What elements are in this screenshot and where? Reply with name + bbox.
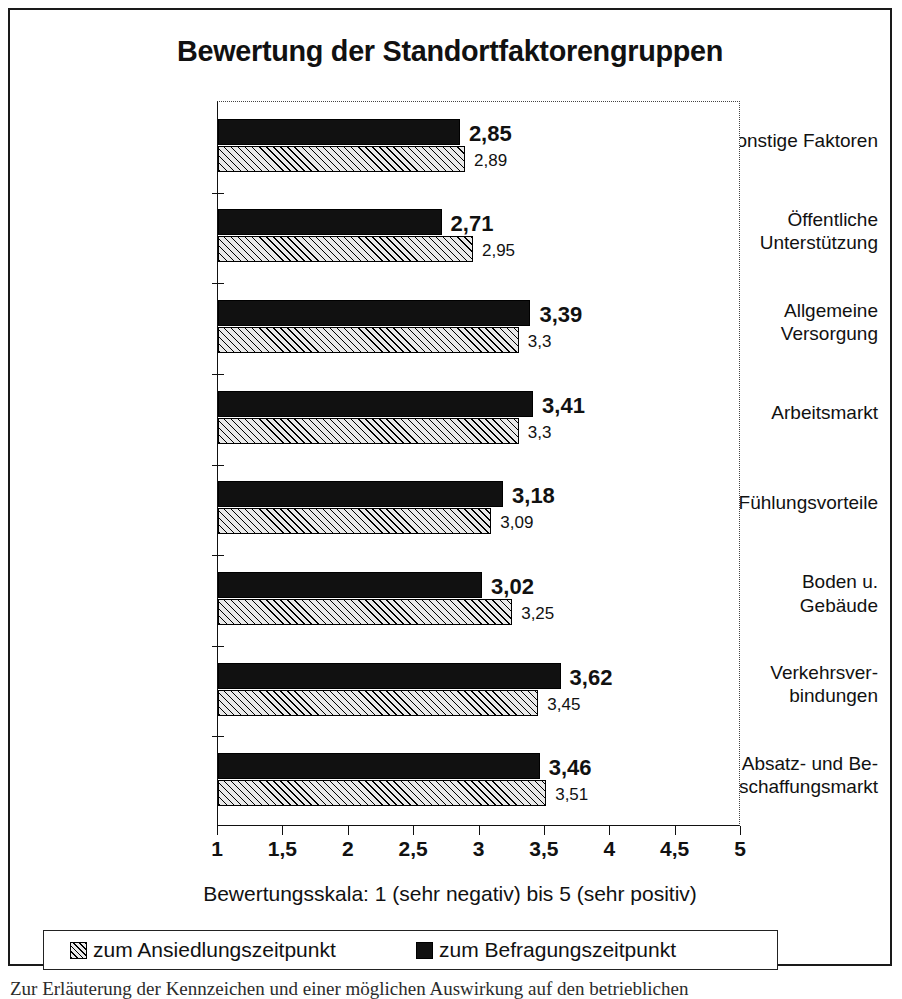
bar-group: 3,183,09 (218, 465, 739, 556)
category-tick (212, 465, 224, 466)
x-axis-tick (348, 826, 349, 835)
bar-befragungszeitpunkt (218, 572, 482, 598)
hatched-swatch (70, 942, 87, 959)
bar-value-label: 2,89 (474, 152, 507, 169)
bar-value-label: 3,62 (570, 667, 613, 689)
bar-value-label: 2,71 (451, 213, 494, 235)
x-axis-tick-label: 2 (342, 837, 354, 861)
bar-ansiedlungszeitpunkt (218, 780, 546, 806)
x-axis-tick-label: 1,5 (268, 837, 297, 861)
bar-value-label: 3,18 (512, 485, 555, 507)
bar-group: 3,413,3 (218, 374, 739, 465)
x-axis-tick (544, 826, 545, 835)
bar-group: 2,712,95 (218, 193, 739, 284)
category-tick (212, 646, 224, 647)
bar-value-label: 3,45 (547, 696, 580, 713)
x-axis-tick-label: 4 (603, 837, 615, 861)
bar-ansiedlungszeitpunkt (218, 690, 538, 716)
bar-befragungszeitpunkt (218, 663, 561, 689)
category-tick (212, 736, 224, 737)
bar-group: 3,623,45 (218, 646, 739, 737)
bar-ansiedlungszeitpunkt (218, 236, 473, 262)
bar-group: 3,463,51 (218, 736, 739, 827)
x-axis-tick (609, 826, 610, 835)
bar-group: 2,852,89 (218, 102, 739, 193)
bar-group: 3,023,25 (218, 555, 739, 646)
bar-value-label: 3,39 (539, 304, 582, 326)
x-axis: 11,522,533,544,55 (217, 826, 740, 838)
x-axis-tick (217, 826, 218, 835)
category-tick (212, 193, 224, 194)
x-axis-tick-label: 5 (734, 837, 746, 861)
x-axis-tick (740, 826, 741, 835)
legend-label: zum Ansiedlungszeitpunkt (93, 938, 336, 962)
x-axis-tick-label: 2,5 (399, 837, 428, 861)
bar-value-label: 3,3 (528, 333, 552, 350)
x-axis-tick (282, 826, 283, 835)
x-axis-tick-label: 3,5 (529, 837, 558, 861)
caption-text: Zur Erläuterung der Kennzeichen und eine… (10, 978, 890, 999)
x-axis-tick (413, 826, 414, 835)
bar-befragungszeitpunkt (218, 391, 533, 417)
chart-title: Bewertung der Standortfaktorengruppen (28, 34, 873, 68)
category-tick (212, 555, 224, 556)
bar-value-label: 3,46 (549, 757, 592, 779)
bar-ansiedlungszeitpunkt (218, 508, 491, 534)
bar-befragungszeitpunkt (218, 300, 530, 326)
bar-ansiedlungszeitpunkt (218, 418, 519, 444)
plot-area: 2,852,892,712,953,393,33,413,33,183,093,… (217, 101, 740, 826)
chart-legend: zum Ansiedlungszeitpunktzum Befragungsze… (43, 930, 778, 970)
page-caption-cutoff: Zur Erläuterung der Kennzeichen und eine… (10, 978, 890, 999)
bar-value-label: 3,3 (528, 424, 552, 441)
x-axis-tick (675, 826, 676, 835)
legend-label: zum Befragungszeitpunkt (439, 938, 676, 962)
bar-ansiedlungszeitpunkt (218, 146, 465, 172)
x-axis-tick-label: 1 (211, 837, 223, 861)
x-axis-tick-label: 4,5 (660, 837, 689, 861)
category-tick (212, 283, 224, 284)
figure-frame: Bewertung der Standortfaktorengruppen so… (8, 8, 892, 966)
bar-value-label: 3,51 (555, 786, 588, 803)
bar-value-label: 3,41 (542, 395, 585, 417)
bar-befragungszeitpunkt (218, 753, 540, 779)
bar-befragungszeitpunkt (218, 209, 442, 235)
bar-value-label: 2,95 (482, 242, 515, 259)
bar-value-label: 3,02 (491, 576, 534, 598)
bar-value-label: 2,85 (469, 123, 512, 145)
bar-befragungszeitpunkt (218, 119, 460, 145)
solid-black-swatch (416, 942, 433, 959)
x-axis-tick (479, 826, 480, 835)
bar-befragungszeitpunkt (218, 481, 503, 507)
bar-group: 3,393,3 (218, 283, 739, 374)
legend-item: zum Befragungszeitpunkt (416, 938, 676, 962)
bar-ansiedlungszeitpunkt (218, 599, 512, 625)
bar-value-label: 3,25 (521, 605, 554, 622)
x-axis-tick-label: 3 (473, 837, 485, 861)
category-tick (212, 374, 224, 375)
bar-value-label: 3,09 (500, 514, 533, 531)
x-axis-caption: Bewertungsskala: 1 (sehr negativ) bis 5 … (10, 882, 890, 906)
legend-item: zum Ansiedlungszeitpunkt (70, 938, 336, 962)
bar-ansiedlungszeitpunkt (218, 327, 519, 353)
